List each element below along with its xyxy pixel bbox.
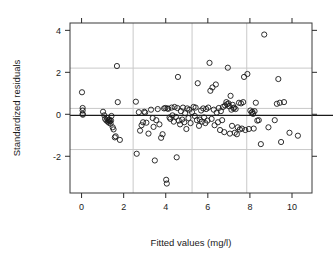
data-point — [262, 32, 267, 37]
data-point — [133, 99, 138, 104]
x-tick-label: 2 — [121, 202, 126, 212]
x-tick-label: 10 — [287, 202, 297, 212]
data-point — [266, 125, 271, 130]
scatter-plot-figure: 0246810 -2024 Fitted values (mg/l) Stand… — [0, 0, 333, 259]
data-point — [211, 107, 216, 112]
data-point — [241, 74, 246, 79]
y-tick-label: 0 — [56, 110, 61, 120]
data-points — [79, 32, 300, 186]
data-point — [137, 128, 142, 133]
data-point — [276, 76, 281, 81]
x-axis-tick-labels: 0246810 — [79, 202, 297, 212]
y-tick-label: 2 — [56, 68, 61, 78]
x-tick-label: 8 — [247, 202, 252, 212]
y-axis-title: Standardized residuals — [11, 59, 22, 156]
data-point — [144, 120, 149, 125]
data-point — [117, 137, 122, 142]
data-point — [213, 82, 218, 87]
data-point — [220, 118, 225, 123]
data-point — [186, 115, 191, 120]
data-point — [164, 181, 169, 186]
data-point — [207, 60, 212, 65]
x-axis-title: Fitted values (mg/l) — [151, 237, 232, 248]
data-point — [272, 118, 277, 123]
data-point — [146, 131, 151, 136]
x-tick-label: 0 — [79, 202, 84, 212]
data-point — [151, 124, 156, 129]
data-point — [79, 90, 84, 95]
data-point — [229, 123, 234, 128]
chart-canvas: 0246810 -2024 Fitted values (mg/l) Stand… — [0, 0, 333, 259]
data-point — [228, 93, 233, 98]
data-point — [136, 110, 141, 115]
data-point — [148, 107, 153, 112]
y-tick-label: -2 — [53, 152, 61, 162]
data-point — [253, 100, 258, 105]
data-point — [222, 130, 227, 135]
data-point — [157, 122, 162, 127]
data-point — [195, 81, 200, 86]
data-point — [278, 139, 283, 144]
data-point — [184, 126, 189, 131]
x-tick-label: 4 — [163, 202, 168, 212]
data-point — [295, 133, 300, 138]
x-tick-label: 6 — [205, 202, 210, 212]
data-point — [152, 158, 157, 163]
data-point — [258, 142, 263, 147]
data-point — [287, 130, 292, 135]
data-point — [227, 131, 232, 136]
data-point — [175, 74, 180, 79]
y-axis-tick-labels: -2024 — [53, 26, 61, 162]
data-point — [174, 155, 179, 160]
y-tick-label: 4 — [56, 26, 61, 36]
data-point — [212, 123, 217, 128]
data-point — [115, 100, 120, 105]
data-point — [245, 71, 250, 76]
data-point — [155, 106, 160, 111]
data-point — [134, 151, 139, 156]
